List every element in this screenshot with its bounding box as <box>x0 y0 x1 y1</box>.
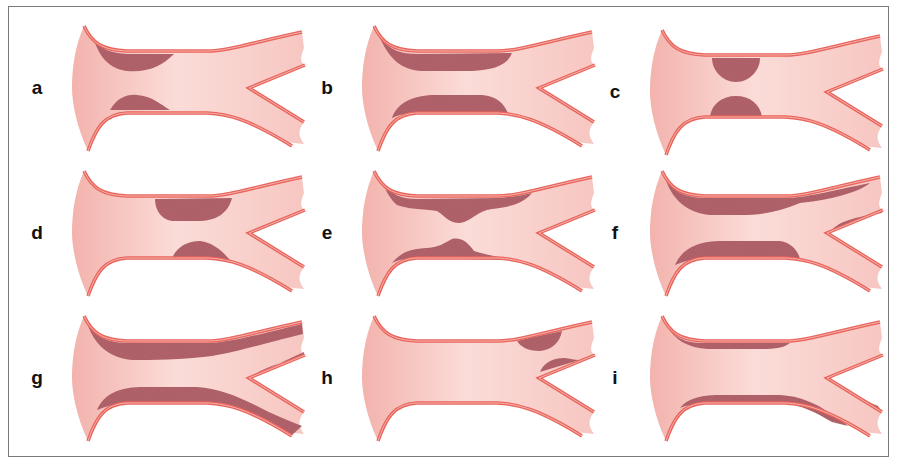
panel-f: f <box>600 163 880 303</box>
panel-i: i <box>600 308 880 448</box>
panel-h: h <box>312 308 592 448</box>
panel-d: d <box>22 163 302 303</box>
artery-bifurcation-diagram <box>22 308 302 448</box>
artery-bifurcation-diagram <box>600 308 880 448</box>
artery-bifurcation-diagram <box>22 18 302 158</box>
panel-g: g <box>22 308 302 448</box>
artery-bifurcation-diagram <box>312 18 592 158</box>
artery-bifurcation-diagram <box>600 22 880 162</box>
panel-a: a <box>22 18 302 158</box>
artery-bifurcation-diagram <box>312 308 592 448</box>
artery-bifurcation-diagram <box>22 163 302 303</box>
panel-b: b <box>312 18 592 158</box>
artery-bifurcation-diagram <box>312 163 592 303</box>
panel-e: e <box>312 163 592 303</box>
panel-c: c <box>600 22 880 162</box>
artery-bifurcation-diagram <box>600 163 880 303</box>
